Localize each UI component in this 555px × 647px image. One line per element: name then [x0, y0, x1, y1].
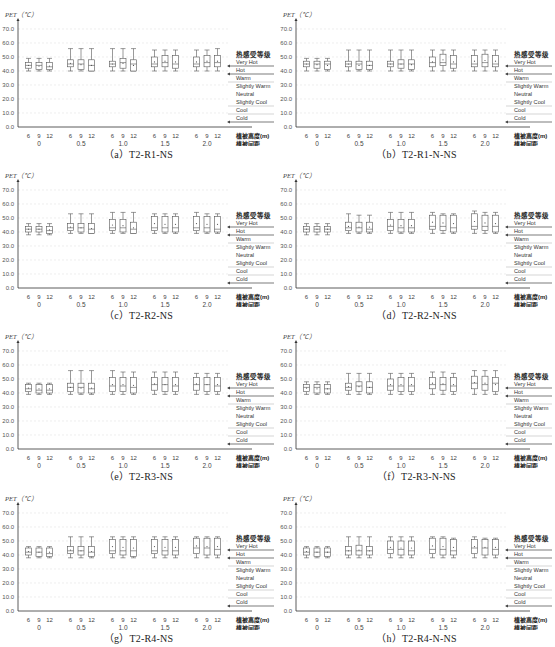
y-tick-label: 10.0 — [280, 432, 292, 438]
arrow-left-icon — [227, 121, 230, 124]
legend-level-label: Cool — [236, 107, 248, 113]
y-tick-label: 0.0 — [6, 285, 15, 291]
box — [398, 212, 404, 233]
x-subtick-label: 9 — [441, 617, 445, 623]
legend-level-label: Slightly Cool — [514, 99, 545, 105]
boxplot-chart: PET（℃）0.010.020.030.040.050.060.070.0691… — [0, 484, 277, 630]
box — [409, 50, 415, 71]
x-subtick-label: 9 — [121, 294, 125, 300]
box — [131, 372, 137, 394]
x-subtick-label: 12 — [408, 294, 415, 300]
box — [314, 382, 320, 395]
box — [162, 214, 168, 234]
panel-caption: （b）T2-R1-N-NS — [278, 146, 555, 161]
arrow-left-icon — [227, 65, 230, 68]
x-subtick-label: 12 — [492, 294, 499, 300]
box — [451, 538, 457, 558]
y-axis-arrow-icon — [295, 502, 298, 505]
legend-level-label: Neutral — [236, 575, 254, 581]
x-subtick-label: 6 — [431, 617, 435, 623]
y-tick-label: 40.0 — [280, 229, 292, 235]
y-tick-label: 20.0 — [2, 418, 14, 424]
x-subtick-label: 9 — [121, 617, 125, 623]
box — [304, 382, 310, 395]
box — [472, 371, 478, 395]
x-subtick-label: 6 — [69, 455, 73, 461]
box — [215, 537, 221, 558]
y-tick-label: 20.0 — [2, 96, 14, 102]
x-subtick-label: 9 — [357, 617, 361, 623]
y-tick-label: 50.0 — [280, 376, 292, 382]
x-subtick-label: 9 — [163, 294, 167, 300]
panel-caption: （h）T2-R4-N-NS — [278, 630, 555, 645]
box — [89, 537, 95, 558]
legend-level-label: Very Hot — [236, 220, 258, 226]
legend-level-label: Cold — [514, 599, 526, 605]
y-tick-label: 30.0 — [280, 243, 292, 249]
box — [304, 58, 310, 71]
legend-level-label: Hot — [514, 551, 523, 557]
legend-level-label: Hot — [236, 389, 245, 395]
panel-caption: （c）T2-R2-NS — [0, 307, 277, 322]
y-tick-label: 70.0 — [2, 187, 14, 193]
x-axis-label-height: 植被高度(m) — [513, 132, 547, 140]
box — [47, 383, 53, 394]
y-tick-label: 0.0 — [6, 446, 15, 452]
box — [388, 373, 394, 394]
box — [304, 224, 310, 235]
legend-level-label: Hot — [514, 228, 523, 234]
y-tick-label: 0.0 — [6, 608, 15, 614]
y-axis-arrow-icon — [17, 502, 20, 505]
x-subtick-label: 12 — [214, 617, 221, 623]
box — [409, 537, 415, 558]
x-subtick-label: 6 — [111, 617, 115, 623]
box — [89, 49, 95, 71]
box — [409, 212, 415, 233]
box — [314, 58, 320, 71]
box — [68, 537, 74, 558]
x-subtick-label: 9 — [441, 294, 445, 300]
y-tick-label: 20.0 — [280, 418, 292, 424]
x-axis-label-height: 植被高度(m) — [235, 132, 269, 140]
box — [162, 537, 168, 558]
x-subtick-label: 6 — [27, 133, 31, 139]
chart-panel: PET（℃）0.010.020.030.040.050.060.070.0691… — [278, 484, 555, 645]
box — [493, 212, 499, 233]
y-tick-label: 60.0 — [2, 524, 14, 530]
box — [120, 212, 126, 233]
x-subtick-label: 6 — [473, 455, 477, 461]
chart-panel: PET（℃）0.010.020.030.040.050.060.070.0691… — [278, 161, 555, 322]
arrow-left-icon — [227, 73, 230, 76]
box — [493, 371, 499, 395]
legend-level-label: Slightly Warm — [236, 244, 271, 250]
y-tick-label: 60.0 — [2, 362, 14, 368]
legend-level-label: Very Hot — [236, 381, 258, 387]
x-subtick-label: 12 — [88, 133, 95, 139]
box — [204, 50, 210, 71]
legend-level-label: Cold — [514, 437, 526, 443]
box — [367, 215, 373, 233]
x-subtick-label: 12 — [450, 294, 457, 300]
box — [346, 214, 352, 234]
arrow-left-icon — [505, 395, 508, 398]
x-subtick-label: 9 — [163, 133, 167, 139]
x-subtick-label: 9 — [483, 133, 487, 139]
legend-level-label: Neutral — [514, 91, 532, 97]
box — [472, 211, 478, 233]
y-tick-label: 10.0 — [2, 432, 14, 438]
x-subtick-label: 6 — [69, 133, 73, 139]
y-tick-label: 40.0 — [280, 68, 292, 74]
box — [430, 50, 436, 71]
legend-level-label: Warm — [236, 559, 251, 565]
box — [451, 373, 457, 394]
y-axis-arrow-icon — [17, 179, 20, 182]
y-axis-arrow-icon — [17, 340, 20, 343]
x-subtick-label: 9 — [79, 133, 83, 139]
y-tick-label: 10.0 — [2, 594, 14, 600]
legend-level-label: Slightly Cool — [236, 260, 267, 266]
x-subtick-label: 12 — [324, 617, 331, 623]
box — [325, 547, 331, 558]
box — [26, 224, 32, 235]
x-subtick-label: 12 — [130, 455, 137, 461]
box — [68, 49, 74, 71]
